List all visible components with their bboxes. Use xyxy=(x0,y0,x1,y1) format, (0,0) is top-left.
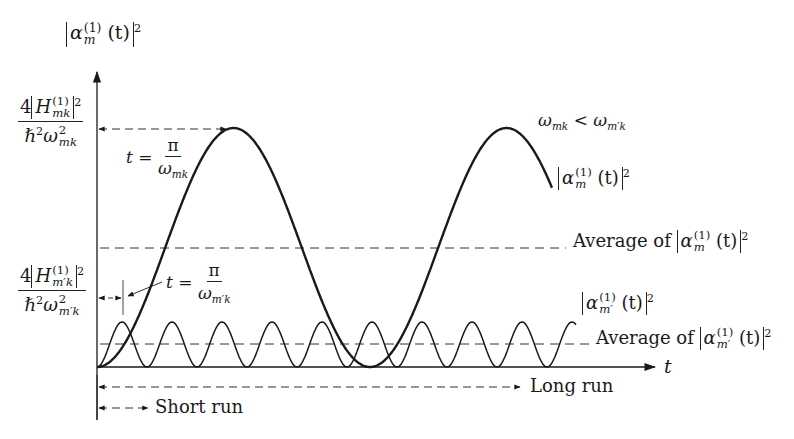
short-run-label: Short run xyxy=(155,398,243,416)
frequency-condition: ωmk < ωm′k xyxy=(538,112,626,132)
y-tick-max-slow: 4H(1)mk2 ℏ2ω2mk xyxy=(18,96,83,149)
period-mpk-annotation: t = πωm′k xyxy=(166,262,231,305)
period-mpk-pointer xyxy=(128,282,162,296)
fast-curve-label: α(1)m′ (t)2 xyxy=(582,292,654,315)
average-fast-label: Average of α(1)m′ (t)2 xyxy=(596,327,771,350)
average-slow-label: Average of α(1)m (t)2 xyxy=(573,230,748,253)
transition-probability-diagram xyxy=(0,0,794,439)
x-axis-label: t xyxy=(664,357,672,376)
y-tick-max-fast: 4H(1)m′k2 ℏ2ω2m′k xyxy=(18,265,86,318)
period-mk-annotation: t = πωmk xyxy=(126,137,188,180)
fast-oscillation-curve xyxy=(97,322,576,367)
long-run-label: Long run xyxy=(530,377,613,395)
y-axis-label: α(1)m (t)2 xyxy=(66,22,141,47)
slow-curve-label: α(1)m (t)2 xyxy=(558,167,630,190)
